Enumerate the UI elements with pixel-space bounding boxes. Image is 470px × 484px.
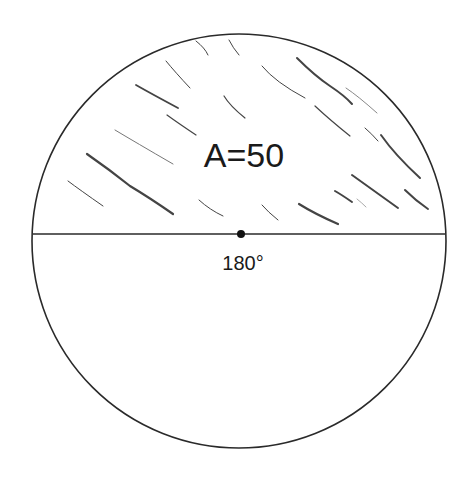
hatching bbox=[68, 40, 428, 224]
center-point bbox=[237, 230, 245, 238]
area-label: A=50 bbox=[204, 136, 284, 174]
circle-outline bbox=[32, 34, 446, 448]
circle-diagram: A=50 180° bbox=[0, 0, 470, 484]
angle-label: 180° bbox=[222, 252, 263, 274]
